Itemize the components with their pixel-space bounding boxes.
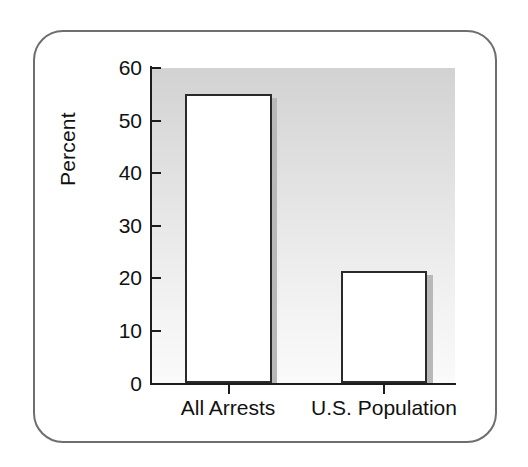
y-tick-mark-30 — [152, 225, 161, 227]
bar-all-arrests — [185, 94, 272, 383]
x-axis-line — [150, 383, 456, 385]
y-tick-label-0: 0 — [102, 373, 142, 394]
y-tick-label-10: 10 — [102, 320, 142, 341]
y-tick-label-20: 20 — [102, 267, 142, 288]
bar-shadow-us-population — [427, 275, 433, 383]
y-tick-mark-10 — [152, 330, 161, 332]
x-tick-label-us-population: U.S. Population — [294, 396, 474, 419]
y-tick-label-40: 40 — [102, 162, 142, 183]
bar-us-population — [341, 271, 427, 383]
y-axis-title: Percent — [56, 112, 80, 186]
bar-shadow-all-arrests — [272, 98, 277, 383]
y-tick-mark-40 — [152, 172, 161, 174]
y-tick-label-30: 30 — [102, 215, 142, 236]
x-tick-mark-us-population — [383, 385, 385, 394]
y-tick-mark-20 — [152, 277, 161, 279]
x-tick-label-all-arrests: All Arrests — [148, 396, 308, 419]
y-tick-mark-60 — [152, 67, 161, 69]
y-tick-mark-50 — [152, 120, 161, 122]
x-tick-mark-all-arrests — [228, 385, 230, 394]
y-tick-label-60: 60 — [102, 57, 142, 78]
y-tick-label-50: 50 — [102, 110, 142, 131]
figure-root: 60 50 40 30 20 10 0 Percent All Arrests … — [0, 0, 528, 467]
y-tick-label-group: 60 50 40 30 20 10 0 — [98, 0, 142, 467]
